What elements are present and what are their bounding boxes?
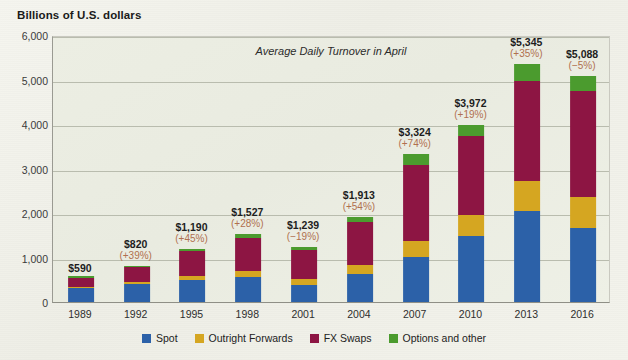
- legend-swatch-icon: [142, 334, 151, 343]
- bar-segment-spot[interactable]: [68, 288, 94, 302]
- bar-segment-swaps[interactable]: [514, 81, 540, 181]
- bar-segment-options[interactable]: [458, 125, 484, 136]
- y-axis-title: Billions of U.S. dollars: [17, 9, 141, 21]
- stacked-bar[interactable]: [458, 125, 484, 302]
- legend-item-forwards[interactable]: Outright Forwards: [195, 332, 293, 344]
- bar-segment-spot[interactable]: [235, 277, 261, 302]
- bar-value-label: $5,088(−5%): [566, 48, 598, 72]
- bar-value-label: $1,913(+54%): [343, 189, 376, 213]
- stacked-bar[interactable]: [403, 154, 429, 302]
- bar-change-value: (+35%): [510, 48, 543, 60]
- legend-label: FX Swaps: [324, 332, 372, 344]
- y-axis-tick-label: 1,000: [0, 253, 48, 265]
- bar-group[interactable]: [555, 35, 611, 302]
- legend: SpotOutright ForwardsFX SwapsOptions and…: [0, 332, 628, 344]
- bar-segment-spot[interactable]: [179, 280, 205, 302]
- bar-change-value: (+19%): [454, 109, 487, 121]
- legend-label: Outright Forwards: [209, 332, 293, 344]
- stacked-bar[interactable]: [235, 234, 261, 302]
- x-axis-tick-label: 1992: [124, 308, 147, 320]
- x-axis-tick-label: 2001: [291, 308, 314, 320]
- bar-value-label: $1,527(+28%): [231, 206, 264, 230]
- bar-change-value: (+45%): [175, 233, 208, 245]
- bar-segment-options[interactable]: [514, 64, 540, 81]
- bar-segment-swaps[interactable]: [179, 251, 205, 275]
- bar-total-value: $1,190: [175, 221, 208, 233]
- bar-group[interactable]: [444, 35, 500, 302]
- bar-segment-forwards[interactable]: [347, 265, 373, 274]
- x-axis-tick-label: 2007: [403, 308, 426, 320]
- x-axis-tick-label: 1998: [236, 308, 259, 320]
- bar-group[interactable]: [165, 35, 221, 302]
- bar-group[interactable]: [109, 35, 165, 302]
- x-axis-tick-label: 2013: [515, 308, 538, 320]
- bar-total-value: $1,913: [343, 189, 376, 201]
- bar-segment-spot[interactable]: [403, 257, 429, 302]
- legend-item-options[interactable]: Options and other: [389, 332, 486, 344]
- x-axis-tick-label: 1989: [68, 308, 91, 320]
- bar-segment-forwards[interactable]: [570, 197, 596, 228]
- bar-change-value: (+28%): [231, 218, 264, 230]
- bar-segment-spot[interactable]: [570, 228, 596, 302]
- x-axis-tick-label: 2004: [347, 308, 370, 320]
- y-axis-tick-label: 5,000: [0, 75, 48, 87]
- stacked-bar[interactable]: [291, 247, 317, 302]
- bar-total-value: $590: [68, 262, 91, 274]
- stacked-bar[interactable]: [68, 276, 94, 302]
- bar-value-label: $1,239(−19%): [287, 219, 320, 243]
- bar-segment-forwards[interactable]: [458, 215, 484, 236]
- legend-swatch-icon: [195, 334, 204, 343]
- bar-group[interactable]: [276, 35, 332, 302]
- bar-segment-options[interactable]: [403, 154, 429, 165]
- bar-segment-options[interactable]: [570, 76, 596, 92]
- bar-change-value: (−19%): [287, 231, 320, 243]
- bar-total-value: $1,527: [231, 206, 264, 218]
- bar-segment-forwards[interactable]: [403, 241, 429, 257]
- stacked-bar[interactable]: [570, 76, 596, 302]
- bar-segment-swaps[interactable]: [570, 91, 596, 197]
- bar-segment-swaps[interactable]: [347, 222, 373, 264]
- bar-total-value: $820: [119, 238, 152, 250]
- bar-segment-swaps[interactable]: [291, 250, 317, 279]
- legend-label: Options and other: [403, 332, 486, 344]
- stacked-bar[interactable]: [179, 249, 205, 302]
- bar-segment-swaps[interactable]: [458, 136, 484, 214]
- bar-value-label: $3,324(+74%): [398, 126, 431, 150]
- bar-value-label: $3,972(+19%): [454, 97, 487, 121]
- x-axis-tick-label: 2010: [459, 308, 482, 320]
- bar-group[interactable]: [332, 35, 388, 302]
- y-axis-tick-label: 2,000: [0, 208, 48, 220]
- x-axis-tick-label: 1995: [180, 308, 203, 320]
- bar-segment-swaps[interactable]: [68, 278, 94, 286]
- y-axis-tick-label: 0: [0, 297, 48, 309]
- bar-segment-swaps[interactable]: [124, 267, 150, 281]
- y-axis-tick-label: 4,000: [0, 119, 48, 131]
- bar-segment-spot[interactable]: [347, 274, 373, 302]
- bar-segment-spot[interactable]: [458, 236, 484, 302]
- stacked-bar[interactable]: [124, 266, 150, 302]
- legend-item-swaps[interactable]: FX Swaps: [310, 332, 372, 344]
- bar-group[interactable]: [388, 35, 444, 302]
- bar-segment-swaps[interactable]: [403, 165, 429, 241]
- bar-change-value: (−5%): [566, 60, 598, 72]
- bar-change-value: (+39%): [119, 250, 152, 262]
- bar-group[interactable]: [220, 35, 276, 302]
- stacked-bar[interactable]: [347, 217, 373, 302]
- bar-value-label: $1,190(+45%): [175, 221, 208, 245]
- bar-total-value: $5,088: [566, 48, 598, 60]
- bar-segment-forwards[interactable]: [514, 181, 540, 211]
- stacked-bar[interactable]: [514, 64, 540, 302]
- bar-group[interactable]: [499, 35, 555, 302]
- x-axis-tick-label: 2016: [570, 308, 593, 320]
- bar-segment-spot[interactable]: [291, 285, 317, 302]
- y-axis-tick-label: 6,000: [0, 30, 48, 42]
- bar-total-value: $3,972: [454, 97, 487, 109]
- bar-segment-spot[interactable]: [124, 284, 150, 302]
- bar-segment-swaps[interactable]: [235, 238, 261, 271]
- bar-change-value: (+54%): [343, 201, 376, 213]
- bar-total-value: $3,324: [398, 126, 431, 138]
- legend-label: Spot: [156, 332, 178, 344]
- legend-item-spot[interactable]: Spot: [142, 332, 178, 344]
- y-axis-tick-label: 3,000: [0, 164, 48, 176]
- bar-segment-spot[interactable]: [514, 211, 540, 302]
